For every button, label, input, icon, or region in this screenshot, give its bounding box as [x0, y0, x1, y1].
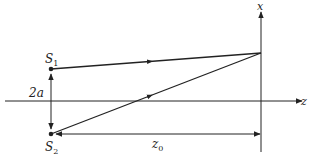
ray-s1: [51, 53, 261, 69]
source1-label: S1: [45, 52, 58, 68]
source2-dot: [49, 132, 54, 137]
z-axis-label: z: [300, 95, 307, 108]
ray-s2: [51, 53, 261, 134]
diagram-canvas: x z S1 S2 2a z0: [0, 0, 311, 162]
separation-label: 2a: [28, 86, 44, 100]
source2-label: S2: [45, 140, 58, 156]
distance-label: z0: [151, 137, 163, 153]
x-axis-label: x: [257, 0, 264, 13]
